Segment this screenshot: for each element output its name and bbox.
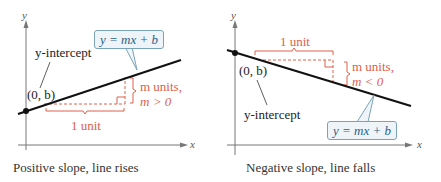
rise-label-line2: m < 0 — [352, 75, 383, 88]
equation-box: y = mx + b — [94, 30, 164, 49]
caption: Negative slope, line falls — [246, 160, 375, 176]
rise-label-line2: m > 0 — [140, 95, 171, 108]
point-label: (0, b) — [239, 64, 267, 77]
y-axis-label: y — [231, 10, 236, 21]
run-label: 1 unit — [280, 35, 310, 48]
x-axis-label: x — [190, 139, 195, 150]
point-label: (0, b) — [27, 88, 55, 101]
rise-label-line1: m units, — [140, 80, 182, 93]
positive-slope-panel: y x y-intercept (0, b) y = mx + b m unit… — [0, 0, 220, 182]
y-axis-arrow-icon — [233, 20, 238, 28]
y-intercept-label: y-intercept — [244, 108, 300, 121]
x-axis-label: x — [417, 139, 422, 150]
intercept-point — [23, 108, 29, 114]
y-axis-label: y — [22, 10, 27, 21]
intercept-point — [232, 50, 238, 56]
equation-text: y = mx + b — [100, 32, 158, 47]
y-axis-arrow-icon — [24, 20, 29, 28]
negative-slope-graph — [221, 0, 441, 182]
x-axis-arrow-icon — [405, 143, 413, 148]
run-brace-icon — [46, 108, 124, 114]
rise-brace-icon — [344, 62, 350, 85]
caption: Positive slope, line rises — [13, 160, 139, 176]
equation-callout-pointer — [357, 95, 374, 122]
y-intercept-label: y-intercept — [35, 46, 91, 59]
intercept-leader-line — [257, 80, 267, 105]
negative-slope-panel: y x 1 unit (0, b) m units, m < 0 y-inter… — [221, 0, 441, 182]
equation-callout-pointer — [125, 47, 137, 70]
rise-label-line1: m units, — [352, 60, 394, 73]
x-axis-arrow-icon — [180, 143, 188, 148]
run-label: 1 unit — [71, 119, 101, 132]
run-brace-icon — [255, 48, 333, 55]
rise-brace-icon — [130, 78, 136, 103]
intercept-leader-line — [40, 62, 50, 88]
equation-text: y = mx + b — [333, 123, 391, 138]
equation-box: y = mx + b — [327, 121, 397, 140]
right-angle-marker-icon — [325, 60, 333, 67]
right-angle-marker-icon — [117, 97, 125, 104]
